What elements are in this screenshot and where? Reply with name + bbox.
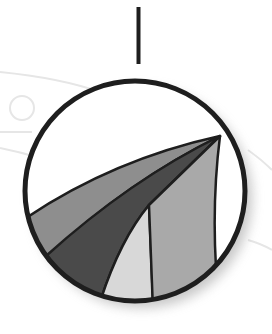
circle-wedge-illustration: [0, 0, 272, 334]
